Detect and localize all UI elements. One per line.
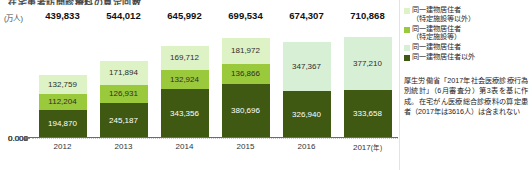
bar-column[interactable]: 710,868377,210333,6582017(年) <box>344 24 392 138</box>
x-axis-label: 2015 <box>237 142 255 151</box>
source-note: 厚生労働省「2017年社会医療診療行為別統計」（6月審査分）第3表を基に作成。在… <box>404 76 528 118</box>
bar-segment-value: 132,759 <box>48 81 77 89</box>
bar-segment-value: 171,894 <box>109 69 138 77</box>
bar-segment[interactable]: 380,696 <box>222 84 270 138</box>
plot-area: 0.0080.0060.0040.0020 439,833132,759112,… <box>32 24 398 138</box>
x-axis-label: 2012 <box>54 142 72 151</box>
bar-segment-value: 169,712 <box>170 54 199 62</box>
bar-segment-value: 333,658 <box>353 110 382 118</box>
bar-column[interactable]: 699,534181,972136,866380,6962015 <box>222 24 270 138</box>
bar-column[interactable]: 544,012171,894126,931245,1872013 <box>100 24 148 138</box>
bar-segment-value: 126,931 <box>109 90 138 98</box>
legend-swatch-icon <box>404 55 410 61</box>
bar-segment[interactable]: 171,894 <box>100 61 148 85</box>
bar-segment[interactable]: 326,940 <box>283 91 331 138</box>
bar-segment-value: 181,972 <box>231 47 260 55</box>
legend-label-line1: 同一建物居住者 <box>412 24 461 33</box>
bar-segment-value: 347,367 <box>292 63 321 71</box>
bar-segment[interactable]: 126,931 <box>100 85 148 103</box>
x-axis-year: 2013 <box>115 142 133 151</box>
bar-segment[interactable]: 333,658 <box>344 90 392 138</box>
x-axis-year: 2015 <box>237 142 255 151</box>
bar-total-label: 544,012 <box>106 10 140 21</box>
y-axis-unit-label: (万人) <box>4 12 23 23</box>
x-axis-label: 2016 <box>298 142 316 151</box>
bar-total-label: 645,992 <box>167 10 201 21</box>
legend-not-same-building[interactable]: 同一建物居住者以外 <box>404 53 530 62</box>
bar-segment[interactable]: 132,924 <box>161 70 209 89</box>
x-axis-year: 2017 <box>353 143 371 152</box>
bar-segment[interactable]: 194,870 <box>39 110 87 138</box>
legend-label-line2: （特定施設等） <box>412 33 461 42</box>
bar-segment-value: 343,356 <box>170 110 199 118</box>
bar-segment[interactable]: 132,759 <box>39 75 87 94</box>
x-axis-year: 2012 <box>54 142 72 151</box>
y-axis-tick: 0 <box>24 134 28 143</box>
legend-label: 同一建物居住者（特定施設等） <box>412 25 461 43</box>
x-axis-year: 2016 <box>298 142 316 151</box>
legend-swatch-icon <box>404 8 410 14</box>
x-axis-label: 2013 <box>115 142 133 151</box>
bar-segment[interactable]: 377,210 <box>344 37 392 91</box>
legend-same-building-facility[interactable]: 同一建物居住者（特定施設等） <box>404 25 530 43</box>
x-axis-line <box>28 137 398 138</box>
legend-label-line1: 同一建物居住者 <box>412 5 461 14</box>
x-axis-label: 2014 <box>176 142 194 151</box>
legend-label-line1: 同一建物居住者以外 <box>412 52 475 61</box>
bar-segment[interactable]: 343,356 <box>161 89 209 138</box>
bar-total-label: 699,534 <box>228 10 262 21</box>
bar-segment[interactable]: 347,367 <box>283 42 331 91</box>
legend-label: 同一建物居住者 <box>412 43 461 52</box>
bar-column[interactable]: 674,307347,367326,9402016 <box>283 24 331 138</box>
bar-segment-value: 194,870 <box>48 120 77 128</box>
bar-column[interactable]: 439,833132,759112,204194,8702012 <box>39 24 87 138</box>
bar-segment-value: 326,940 <box>292 111 321 119</box>
bar-total-label: 439,833 <box>45 10 79 21</box>
gridline <box>32 138 398 139</box>
bar-segment[interactable]: 136,866 <box>222 64 270 84</box>
bar-segment[interactable]: 112,204 <box>39 94 87 110</box>
bar-segment[interactable]: 181,972 <box>222 38 270 64</box>
panel-divider <box>399 0 400 170</box>
bar-group: 439,833132,759112,204194,8702012544,0121… <box>32 24 398 138</box>
bar-segment-value: 380,696 <box>231 107 260 115</box>
bar-segment[interactable]: 169,712 <box>161 46 209 70</box>
x-axis-unit: (年) <box>371 144 382 151</box>
bar-column[interactable]: 645,992169,712132,924343,3562014 <box>161 24 209 138</box>
legend-label-line2: （特定施設等以外） <box>412 15 475 24</box>
bar-segment-value: 132,924 <box>170 76 199 84</box>
legend-label-line1: 同一建物居住者 <box>412 42 461 51</box>
bar-total-label: 710,868 <box>350 10 384 21</box>
bar-segment-value: 377,210 <box>353 60 382 68</box>
legend-swatch-icon <box>404 27 410 33</box>
legend-label: 同一建物居住者（特定施設等以外） <box>412 6 475 24</box>
bar-segment-value: 136,866 <box>231 70 260 78</box>
x-axis-label: 2017(年) <box>353 142 382 152</box>
page-title: 在宅患者訪問診療料の算定回数 <box>8 0 188 5</box>
legend-same-building[interactable]: 同一建物居住者 <box>404 43 530 52</box>
bar-total-label: 674,307 <box>289 10 323 21</box>
legend-label: 同一建物居住者以外 <box>412 53 475 62</box>
x-axis-year: 2014 <box>176 142 194 151</box>
chart-figure: 在宅患者訪問診療料の算定回数 (万人) 0.0080.0060.0040.002… <box>0 0 532 170</box>
legend-swatch-icon <box>404 45 410 51</box>
legend-same-building-other[interactable]: 同一建物居住者（特定施設等以外） <box>404 6 530 24</box>
chart-legend: 同一建物居住者（特定施設等以外）同一建物居住者（特定施設等）同一建物居住者同一建… <box>404 6 530 63</box>
bar-segment-value: 112,204 <box>48 98 76 106</box>
bar-segment-value: 245,187 <box>109 117 138 125</box>
bar-segment[interactable]: 245,187 <box>100 103 148 138</box>
